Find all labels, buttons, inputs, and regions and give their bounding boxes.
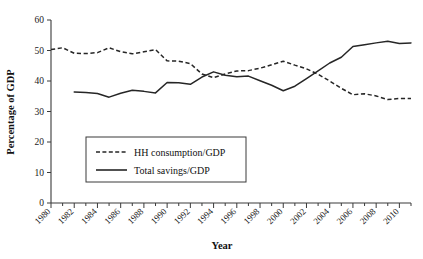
line-chart: 0102030405060 19801982198419861988199019… xyxy=(0,0,423,259)
x-tick-label-2002: 2002 xyxy=(288,206,308,226)
y-tick-label-40: 40 xyxy=(35,76,45,86)
x-tick-label-2004: 2004 xyxy=(311,206,331,226)
x-tick-label-1990: 1990 xyxy=(149,206,169,226)
x-tick-label-2006: 2006 xyxy=(335,206,355,226)
series-line-total-savings-gdp xyxy=(74,41,411,97)
y-tick-labels: 0102030405060 xyxy=(35,15,45,208)
x-tick-label-2008: 2008 xyxy=(358,206,378,226)
y-tick-label-20: 20 xyxy=(35,137,45,147)
y-axis-title: Percentage of GDP xyxy=(5,69,16,155)
y-tick-label-30: 30 xyxy=(35,107,45,117)
chart-figure: 0102030405060 19801982198419861988199019… xyxy=(0,0,423,259)
x-tick-label-1998: 1998 xyxy=(242,206,262,226)
x-tick-label-1996: 1996 xyxy=(218,206,238,226)
x-axis: 1980198219841986198819901992199419961998… xyxy=(33,203,411,226)
x-tick-label-1992: 1992 xyxy=(172,206,192,226)
series-line-hh-consumption-gdp xyxy=(51,48,411,100)
y-tick-label-10: 10 xyxy=(35,168,45,178)
chart-legend: HH consumption/GDP Total savings/GDP xyxy=(86,137,246,182)
x-tick-labels: 1980198219841986198819901992199419961998… xyxy=(33,206,402,226)
x-tick-label-1986: 1986 xyxy=(102,206,122,226)
x-tick-label-1982: 1982 xyxy=(56,206,76,226)
x-tick-label-2010: 2010 xyxy=(381,206,401,226)
x-tick-label-1984: 1984 xyxy=(79,206,99,226)
data-series-group xyxy=(51,41,411,99)
y-tick-marks xyxy=(47,20,51,203)
y-tick-label-60: 60 xyxy=(35,15,45,25)
legend-label-total-savings-gdp: Total savings/GDP xyxy=(134,165,210,176)
x-tick-label-1988: 1988 xyxy=(126,206,146,226)
legend-label-hh-consumption-gdp: HH consumption/GDP xyxy=(134,147,226,158)
x-tick-label-2000: 2000 xyxy=(265,206,285,226)
x-axis-title: Year xyxy=(212,240,233,251)
x-tick-label-1994: 1994 xyxy=(195,206,215,226)
y-axis: 0102030405060 xyxy=(35,15,52,208)
y-tick-label-50: 50 xyxy=(35,46,45,56)
x-tick-label-1980: 1980 xyxy=(33,206,53,226)
